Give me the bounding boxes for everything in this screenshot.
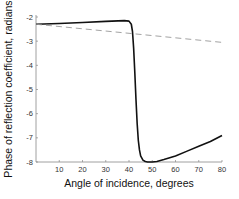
x-tick-label: 30 [102, 165, 110, 174]
y-tick-label: -5 [26, 85, 33, 94]
y-tick-label: -2 [26, 13, 33, 22]
y-tick-label: -4 [26, 61, 33, 70]
axes: 1020304050607080-2-3-4-5-6-7-8 [26, 13, 226, 174]
x-tick-label: 50 [148, 165, 156, 174]
x-tick-label: 40 [125, 165, 133, 174]
y-tick-label: -8 [26, 158, 33, 167]
y-tick-label: -7 [26, 133, 33, 142]
x-tick-label: 60 [171, 165, 179, 174]
series-lines [36, 21, 222, 162]
y-tick-label: -3 [26, 37, 33, 46]
x-tick-label: 80 [218, 165, 226, 174]
phase-chart: 1020304050607080-2-3-4-5-6-7-8 Angle of … [0, 0, 239, 199]
solid-series-line [36, 21, 222, 162]
y-tick-label: -6 [26, 109, 33, 118]
x-tick-label: 10 [55, 165, 63, 174]
x-axis-label: Angle of incidence, degrees [64, 177, 194, 189]
dashed-series-line [36, 24, 222, 42]
x-tick-label: 20 [78, 165, 86, 174]
x-tick-label: 70 [195, 165, 203, 174]
y-axis-label: Phase of reflection coefficient, radians [2, 0, 14, 177]
